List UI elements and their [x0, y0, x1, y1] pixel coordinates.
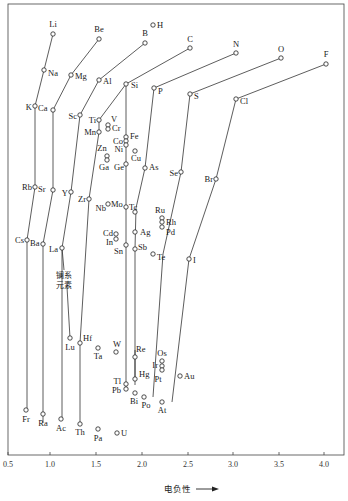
label-Fr: Fr	[22, 414, 30, 424]
label-Ge: Ge	[114, 162, 124, 172]
label-Ni: Ni	[115, 144, 124, 154]
point-Cd	[114, 232, 118, 236]
point-La	[60, 246, 64, 250]
point-Au	[178, 374, 182, 378]
point-Sb	[133, 247, 137, 251]
label-As: As	[149, 162, 158, 172]
point-H	[151, 23, 155, 27]
point-Re	[133, 355, 137, 359]
label-Sr: Sr	[38, 184, 46, 194]
point-Se	[179, 170, 183, 174]
point-Al	[97, 78, 101, 82]
x-tick-label: 2.5	[183, 460, 193, 469]
point-Lu	[68, 336, 72, 340]
label-Sc: Sc	[69, 111, 78, 121]
label-Ru: Ru	[155, 205, 166, 215]
label-P: P	[158, 86, 163, 96]
label-Al: Al	[103, 76, 112, 86]
label-La: La	[49, 244, 58, 254]
point-Hf	[78, 341, 82, 345]
point-Pa	[96, 427, 100, 431]
point-S	[188, 92, 192, 96]
label-O: O	[278, 44, 284, 54]
label-At: At	[158, 405, 167, 415]
point-At	[160, 400, 164, 404]
label-Mo: Mo	[111, 199, 123, 209]
label-Pd: Pd	[166, 227, 176, 237]
point-Na	[42, 68, 46, 72]
label-Rb: Rb	[22, 182, 32, 192]
point-Ca	[51, 108, 55, 112]
label-C: C	[187, 34, 193, 44]
label-Be: Be	[94, 24, 104, 34]
lanthanide-annotation-line2: 元素	[56, 280, 72, 290]
point-U	[115, 431, 119, 435]
point-Mo	[124, 205, 128, 209]
point-Th	[78, 422, 82, 426]
point-Ba	[41, 242, 45, 246]
label-Tc: Tc	[129, 202, 138, 212]
label-Ba: Ba	[30, 238, 40, 248]
label-Po: Po	[142, 400, 151, 410]
point-Li	[51, 32, 55, 36]
point-Hg	[133, 377, 137, 381]
point-P	[152, 86, 156, 90]
group-lines	[27, 34, 326, 425]
element-points	[24, 23, 328, 435]
x-tick-label: 3.5	[274, 460, 284, 469]
label-Th: Th	[75, 427, 85, 437]
label-Li: Li	[49, 19, 57, 29]
point-Os	[160, 359, 164, 363]
point-Sn	[124, 243, 128, 247]
x-tick-label: 1.5	[91, 460, 101, 469]
label-Pa: Pa	[94, 433, 103, 443]
label-Br: Br	[205, 174, 214, 184]
point-I	[187, 257, 191, 261]
point-Bi	[133, 391, 137, 395]
point-Tl	[124, 382, 128, 386]
point-Ra	[41, 412, 45, 416]
point-Pb	[124, 387, 128, 391]
point-Ag	[133, 230, 137, 234]
label-Na: Na	[48, 68, 58, 78]
x-tick-labels: 0.5 1.0 1.5 2.0 2.5 3.0 3.5 4.0	[3, 460, 329, 469]
label-Os: Os	[157, 348, 166, 358]
point-Nb	[106, 202, 110, 206]
label-Ti: Ti	[89, 115, 97, 125]
point-Y	[69, 190, 73, 194]
label-B: B	[142, 28, 148, 38]
point-Cs	[25, 238, 29, 242]
point-Mg	[69, 73, 73, 77]
point-Ac	[59, 417, 63, 421]
label-Fe: Fe	[130, 131, 139, 141]
label-Ra: Ra	[38, 418, 48, 428]
point-Fr	[24, 408, 28, 412]
point-Pd	[160, 225, 164, 229]
point-Te	[151, 252, 155, 256]
label-F: F	[324, 49, 329, 59]
point-Si	[124, 82, 128, 86]
label-Ac: Ac	[56, 423, 66, 433]
arrow-right-icon	[196, 487, 219, 492]
point-Ge	[124, 162, 128, 166]
label-Zn: Zn	[97, 143, 107, 153]
label-Bi: Bi	[130, 396, 139, 406]
point-Ni	[124, 143, 128, 147]
point-Br	[214, 177, 218, 181]
point-W	[114, 350, 118, 354]
label-Cr: Cr	[112, 123, 121, 133]
point-Rb	[33, 185, 37, 189]
point-Cr	[106, 127, 110, 131]
lanthanide-annotation-line1: 镧系	[56, 270, 72, 280]
point-F	[324, 62, 328, 66]
label-U: U	[121, 428, 127, 438]
x-tick-label: 1.0	[45, 460, 55, 469]
point-Cl	[234, 97, 238, 101]
label-Hf: Hf	[83, 333, 92, 343]
point-Sr	[51, 188, 55, 192]
label-Cu: Cu	[131, 153, 142, 163]
point-Sc	[78, 113, 82, 117]
label-Cs: Cs	[15, 235, 24, 245]
point-Zr	[87, 197, 91, 201]
label-Ga: Ga	[99, 162, 109, 172]
